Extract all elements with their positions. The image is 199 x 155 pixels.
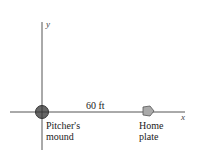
pitchers-mound-line2: mound bbox=[46, 131, 80, 142]
pitchers-mound-line1: Pitcher's bbox=[46, 120, 80, 131]
home-plate-label: Home plate bbox=[139, 120, 163, 142]
x-axis-label: x bbox=[181, 112, 185, 123]
home-plate-line1: Home bbox=[139, 120, 163, 131]
home-plate-line2: plate bbox=[139, 131, 163, 142]
distance-label: 60 ft bbox=[86, 100, 105, 111]
coordinate-diagram bbox=[0, 0, 199, 155]
pitchers-mound-label: Pitcher's mound bbox=[46, 120, 80, 142]
y-axis-label: y bbox=[46, 19, 50, 30]
home-plate-icon bbox=[143, 106, 154, 116]
pitchers-mound-icon bbox=[36, 106, 49, 119]
